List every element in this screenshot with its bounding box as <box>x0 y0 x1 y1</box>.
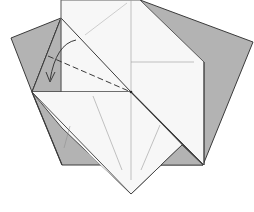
fold-point <box>130 91 133 94</box>
origami-diagram <box>0 0 254 212</box>
diagram-canvas <box>0 0 254 212</box>
